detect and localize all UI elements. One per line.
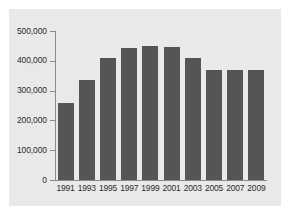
bars-layer [55,31,267,180]
bar-2001 [164,47,180,180]
bar-1997 [121,48,137,180]
y-axis-tick-label: 400,000 [17,56,47,65]
x-axis-tick-label: 2009 [241,183,271,193]
bar-1993 [79,80,95,180]
bar-1991 [58,103,74,180]
bar-2009 [248,70,264,180]
y-axis-tick-label: 100,000 [17,146,47,155]
bar-2007 [227,70,243,180]
bar-1995 [100,58,116,180]
y-axis-tick-label: 300,000 [17,86,47,95]
bar-2003 [185,58,201,180]
bar-1999 [142,46,158,180]
bar-2005 [206,70,222,180]
y-axis-tick-label: 0 [42,176,47,185]
y-axis-tick-label: 500,000 [17,27,47,36]
y-axis-tick-label: 200,000 [17,116,47,125]
x-axis-line [55,180,267,181]
y-axis-tick-mark [50,180,56,181]
bar-chart-figure: 0100,000200,000300,000400,000500,000 199… [0,0,287,212]
